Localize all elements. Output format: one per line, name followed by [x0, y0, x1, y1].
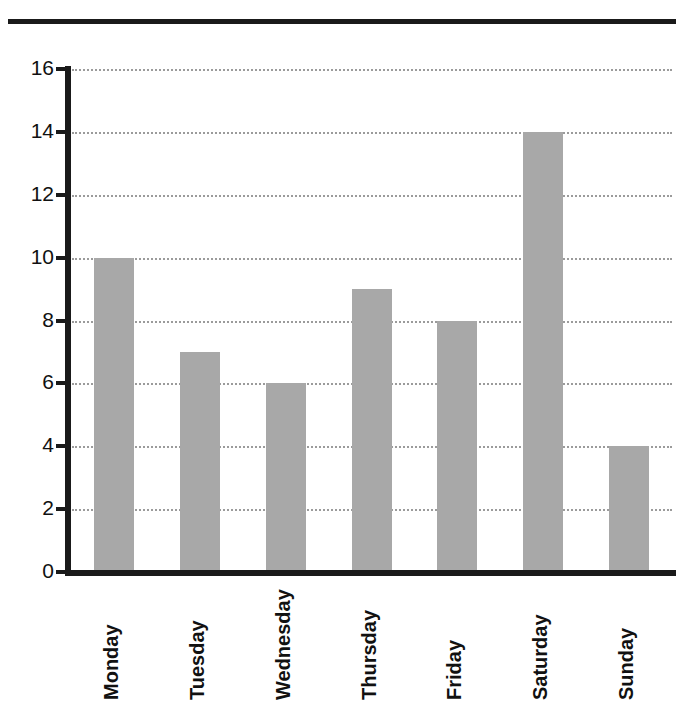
x-axis-label-wednesday: Wednesday: [273, 585, 299, 700]
x-axis-label-text: Friday: [443, 640, 466, 700]
bar: [180, 352, 220, 572]
gridline: [72, 69, 672, 71]
x-axis-label-friday: Friday: [444, 585, 470, 700]
y-axis-tick-label: 8: [8, 308, 54, 332]
bar: [94, 258, 134, 572]
y-axis-tick-label: 12: [8, 182, 54, 206]
gridline: [72, 132, 672, 134]
x-axis-label-tuesday: Tuesday: [187, 585, 213, 700]
x-axis-label-text: Tuesday: [186, 620, 209, 700]
y-axis-tick-label: 0: [8, 559, 54, 583]
y-axis-line: [65, 66, 71, 576]
y-axis-tick-label: 6: [8, 370, 54, 394]
x-axis-label-text: Monday: [100, 624, 123, 700]
x-axis-line: [65, 570, 676, 576]
x-axis-label-text: Wednesday: [272, 589, 295, 700]
x-axis-label-monday: Monday: [101, 585, 127, 700]
x-axis-label-text: Saturday: [529, 614, 552, 700]
x-axis-label-thursday: Thursday: [359, 585, 385, 700]
x-axis-label-text: Thursday: [358, 610, 381, 700]
x-axis-label-saturday: Saturday: [530, 585, 556, 700]
y-axis-tick-label: 16: [8, 56, 54, 80]
x-axis-label-text: Sunday: [615, 628, 638, 700]
plot-area: 0246810121416 MondayTuesdayWednesdayThur…: [0, 0, 685, 705]
gridline: [72, 195, 672, 197]
y-axis-tick-label: 2: [8, 496, 54, 520]
x-axis-label-sunday: Sunday: [616, 585, 642, 700]
bar: [352, 289, 392, 572]
y-axis-tick-label: 4: [8, 433, 54, 457]
bar: [609, 446, 649, 572]
gridline: [72, 258, 672, 260]
bar: [523, 132, 563, 572]
y-axis-tick-label: 14: [8, 119, 54, 143]
y-axis-tick-label: 10: [8, 245, 54, 269]
bar-chart-figure: 0246810121416 MondayTuesdayWednesdayThur…: [0, 0, 685, 705]
bar: [437, 321, 477, 573]
bar: [266, 383, 306, 572]
